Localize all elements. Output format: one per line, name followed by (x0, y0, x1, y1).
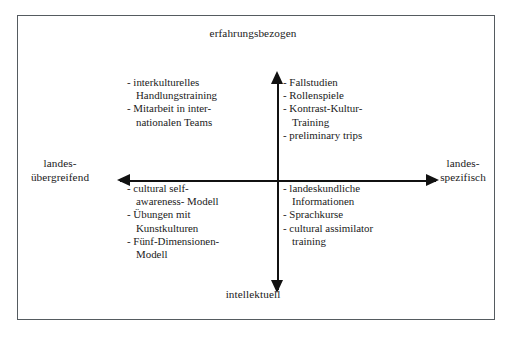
quadrant-item: - Kontrast-Kultur- Training (283, 102, 418, 128)
quadrant-item: - Fünf-Dimensionen- Modell (127, 235, 255, 261)
quadrant-item: - interkulturelles Handlungstraining (127, 76, 255, 102)
quadrant-top-right: - Fallstudien - Rollenspiele - Kontrast-… (283, 76, 418, 142)
quadrant-item: - cultural self- awareness- Modell (127, 182, 255, 208)
quadrant-item: - preliminary trips (283, 129, 418, 142)
axis-label-left: landes- übergreifend (22, 157, 98, 184)
axis-label-right: landes- spezifisch (424, 157, 502, 184)
quadrant-item: - Sprachkurse (283, 208, 423, 221)
axis-label-bottom: intellektuell (0, 288, 506, 302)
axis-label-top: erfahrungsbezogen (0, 27, 506, 41)
vertical-axis-line (277, 78, 279, 290)
quadrant-bottom-left: - cultural self- awareness- Modell - Übu… (127, 182, 255, 261)
quadrant-item: - cultural assimilator training (283, 222, 423, 248)
quadrant-item: - Rollenspiele (283, 89, 418, 102)
quadrant-bottom-right: - landeskundliche Informationen - Sprach… (283, 182, 423, 248)
quadrant-item: - Übungen mit Kunstkulturen (127, 208, 255, 234)
quadrant-item: - landeskundliche Informationen (283, 182, 423, 208)
quadrant-item: - Fallstudien (283, 76, 418, 89)
quadrant-item: - Mitarbeit in inter- nationalen Teams (127, 102, 255, 128)
quadrant-top-left: - interkulturelles Handlungstraining - M… (127, 76, 255, 129)
arrow-up-icon (271, 71, 283, 84)
